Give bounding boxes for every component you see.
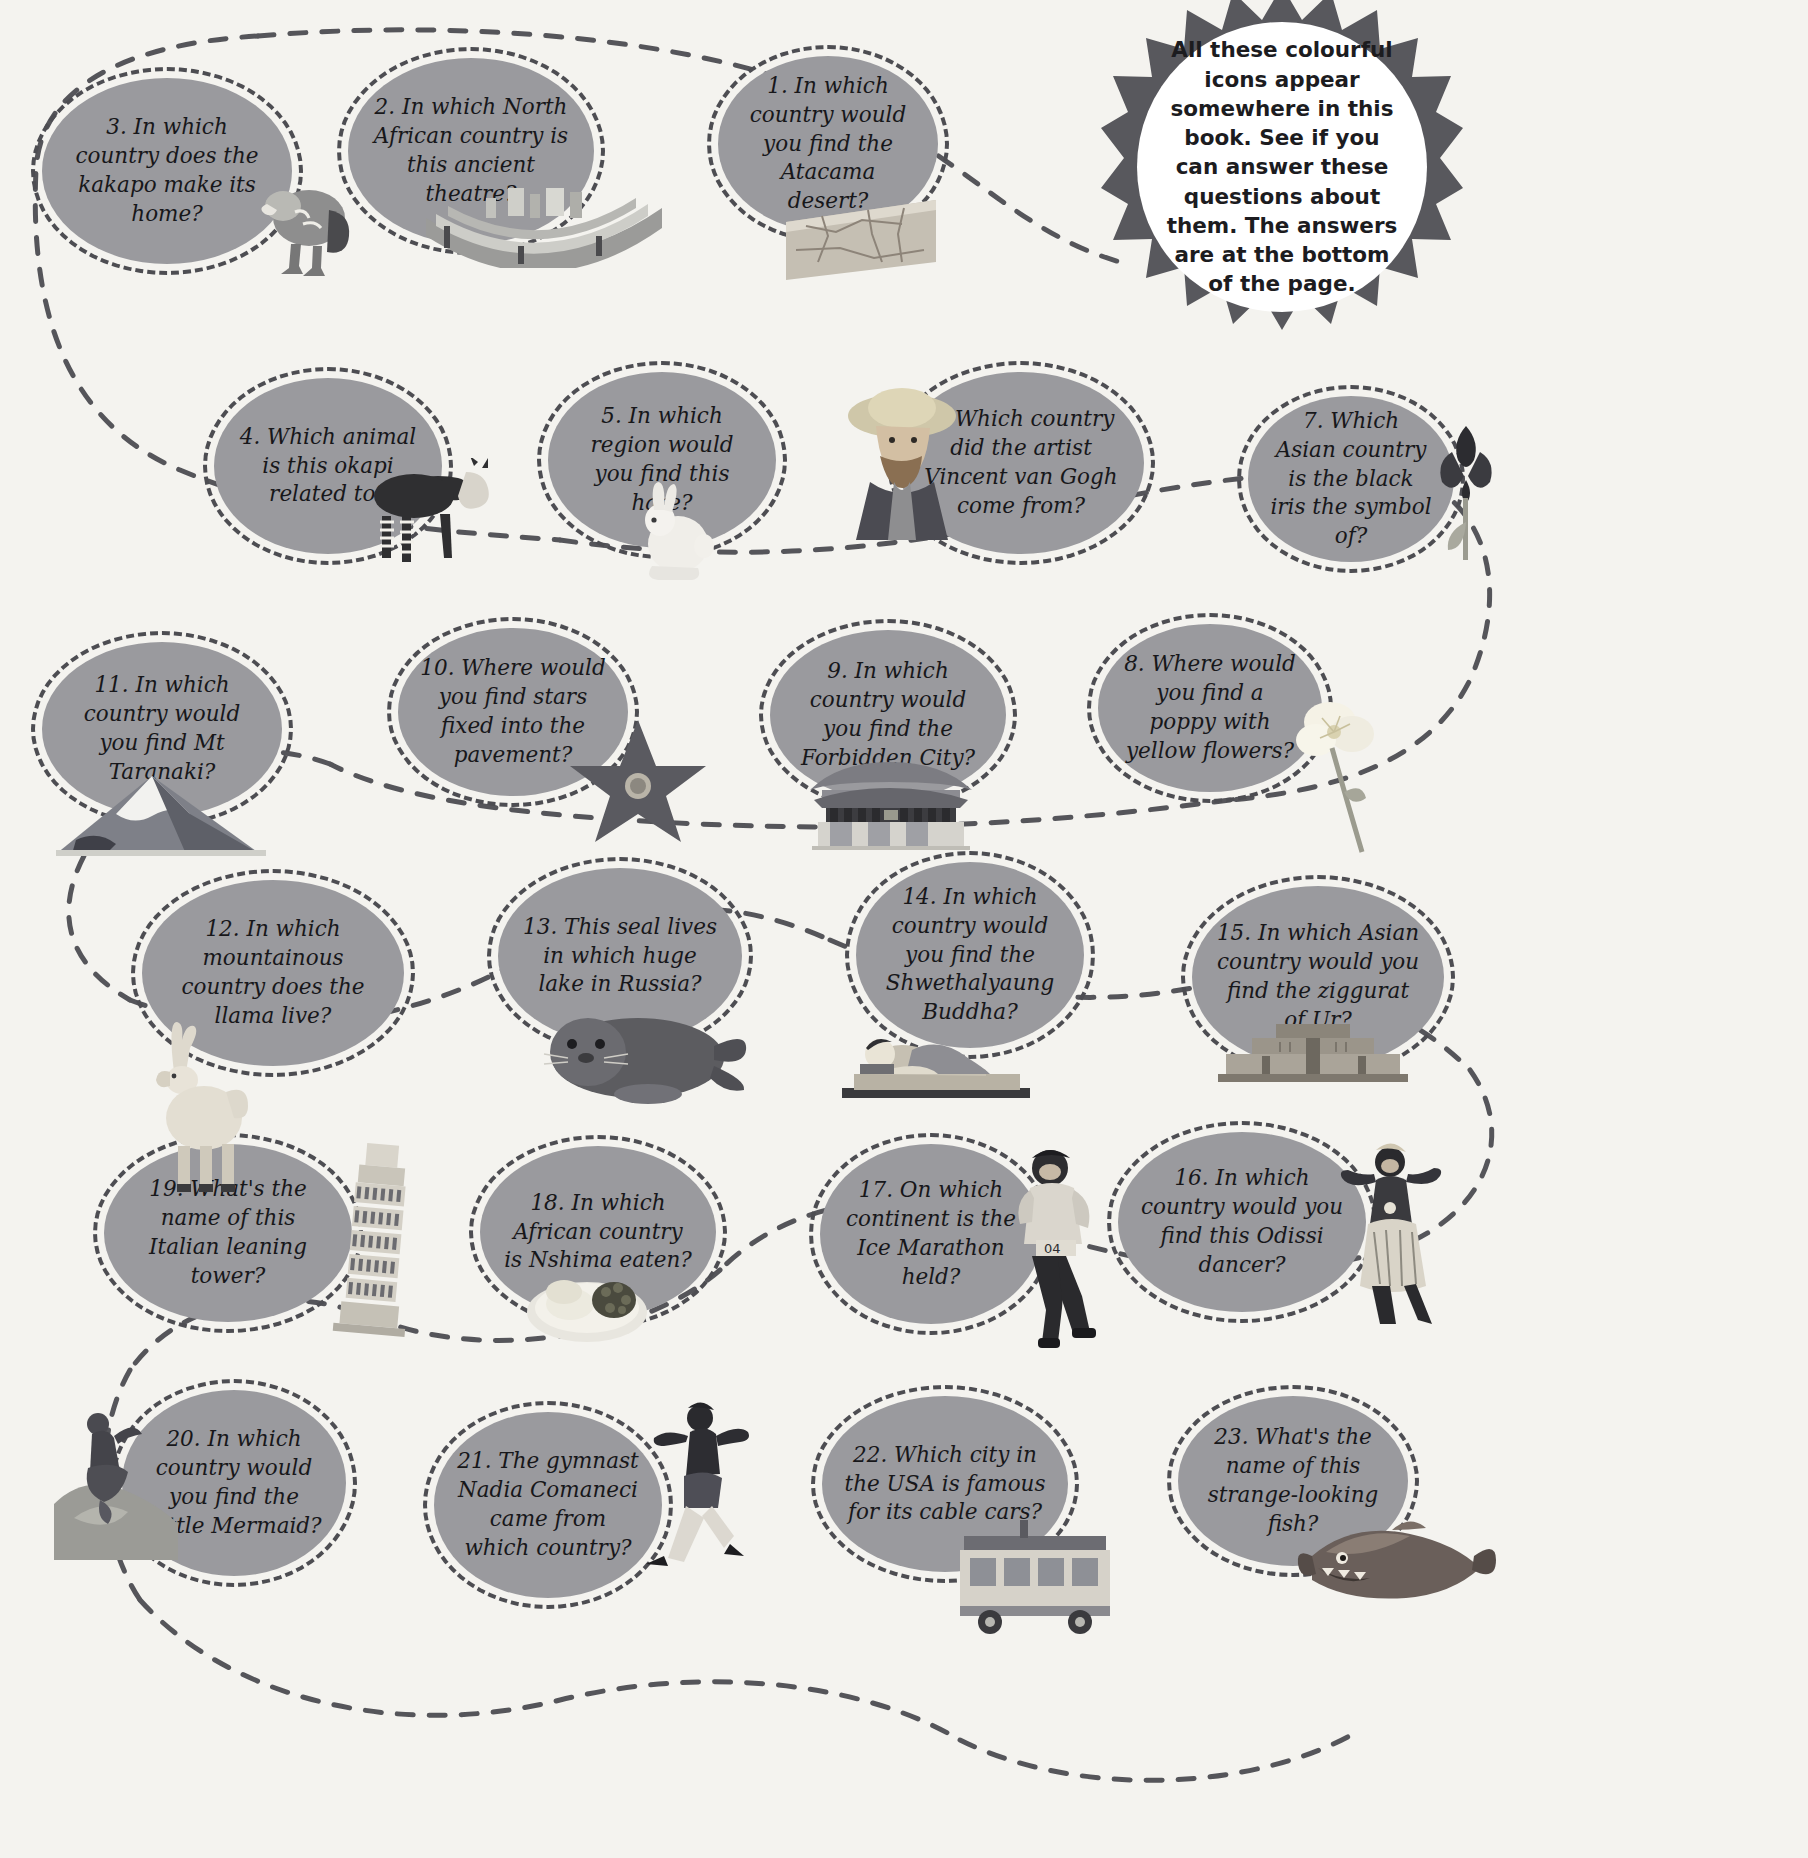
- svg-text:04: 04: [1044, 1241, 1061, 1256]
- ice-marathon-runner-icon: 04: [1006, 1142, 1116, 1352]
- question-text-22: 22. Which city in the USA is famous for …: [844, 1441, 1046, 1527]
- leaning-tower-icon: [316, 1138, 426, 1338]
- ziggurat-icon: [1218, 1020, 1408, 1086]
- quiz-page: All these colourful icons appear somewhe…: [0, 0, 1808, 1858]
- info-badge: All these colourful icons appear somewhe…: [1097, 0, 1467, 352]
- question-text-16: 16. In which country would you find this…: [1140, 1164, 1344, 1279]
- question-text-21: 21. The gymnast Nadia Comaneci came from…: [456, 1447, 640, 1562]
- question-bubble-21[interactable]: 21. The gymnast Nadia Comaneci came from…: [434, 1412, 662, 1598]
- question-text-13: 13. This seal lives in which huge lake i…: [520, 913, 720, 999]
- desert-icon: [786, 196, 936, 282]
- nshima-dish-icon: [522, 1256, 652, 1346]
- yellow-poppy-icon: [1282, 688, 1392, 858]
- badge-disc: All these colourful icons appear somewhe…: [1137, 22, 1427, 312]
- mount-taranaki-icon: [56, 770, 266, 856]
- question-text-9: 9. In which country would you find the F…: [792, 657, 984, 772]
- strange-fish-icon: [1296, 1512, 1496, 1612]
- reclining-buddha-icon: [836, 1016, 1036, 1102]
- gymnast-icon: [634, 1396, 754, 1566]
- badge-text: All these colourful icons appear somewhe…: [1137, 35, 1427, 298]
- black-iris-icon: [1434, 418, 1498, 566]
- kakapo-bird-icon: [243, 172, 363, 282]
- question-text-17: 17. On which continent is the Ice Marath…: [842, 1176, 1020, 1291]
- forbidden-city-icon: [800, 760, 982, 850]
- llama-icon: [130, 1006, 270, 1196]
- question-text-3: 3. In which country does the kakapo make…: [64, 113, 270, 228]
- question-text-1: 1. In which country would you find the A…: [740, 72, 916, 216]
- walk-of-fame-star-icon: [568, 716, 708, 846]
- question-text-7: 7. Which Asian country is the black iris…: [1270, 407, 1432, 551]
- question-text-15: 15. In which Asian country would you fin…: [1214, 919, 1422, 1034]
- odissi-dancer-icon: [1328, 1138, 1456, 1328]
- van-gogh-portrait-icon: [840, 382, 964, 542]
- baikal-seal-icon: [528, 1000, 748, 1106]
- okapi-icon: [354, 458, 504, 568]
- question-text-8: 8. Where would you find a poppy with yel…: [1120, 650, 1300, 765]
- little-mermaid-statue-icon: [54, 1400, 184, 1560]
- question-text-14: 14. In which country would you find the …: [878, 883, 1062, 1027]
- arctic-hare-icon: [630, 480, 730, 590]
- question-bubble-7[interactable]: 7. Which Asian country is the black iris…: [1248, 396, 1454, 562]
- ancient-theatre-icon: [418, 188, 668, 268]
- cable-car-icon: [950, 1516, 1120, 1636]
